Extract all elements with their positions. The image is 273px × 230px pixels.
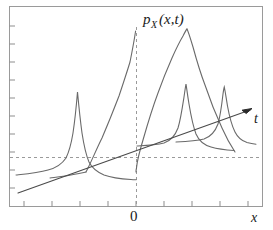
density-curve-t2	[16, 92, 136, 180]
x-axis-label: x	[251, 211, 257, 225]
t-axis-label: t	[254, 112, 258, 126]
density-curve-t1-left	[86, 31, 136, 172]
probability-density-figure: pX(x,t) 0 x t	[0, 0, 273, 230]
origin-label: 0	[130, 209, 138, 224]
density-function-label: pX(x,t)	[143, 12, 184, 30]
density-curve-t1-right-tail	[187, 29, 235, 152]
density-label-base: p	[143, 11, 151, 27]
density-label-args: (x,t)	[157, 11, 184, 27]
plot-canvas	[0, 0, 273, 230]
time-axis-arrow-shaft	[18, 110, 250, 193]
y-axis-ticks	[10, 26, 16, 188]
density-curve-t1	[136, 29, 187, 172]
